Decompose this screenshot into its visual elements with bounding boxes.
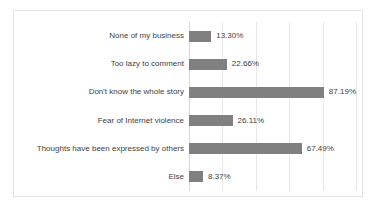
bar-value-label: 8.37% <box>208 173 231 181</box>
bar-row: Fear of Internet violence26.11% <box>189 107 356 135</box>
bar-value-label: 22.66% <box>232 60 259 68</box>
bar <box>189 143 302 154</box>
bar <box>189 171 203 182</box>
bar-value-label: 87.19% <box>329 88 356 96</box>
bar-row: None of my business13.30% <box>189 22 356 50</box>
plot-area: None of my business13.30%Too lazy to com… <box>189 22 356 191</box>
bar-value-label: 67.49% <box>307 145 334 153</box>
bar-row: Thoughts have been expressed by others67… <box>189 135 356 163</box>
category-label: Else <box>168 173 184 181</box>
chart-container: None of my business13.30%Too lazy to com… <box>13 10 363 197</box>
category-label: Don't know the whole story <box>89 88 184 96</box>
gridline <box>356 22 357 191</box>
bar-value-label: 13.30% <box>216 32 243 40</box>
bar-value-label: 26.11% <box>238 117 265 125</box>
bar-row: Else8.37% <box>189 163 356 191</box>
category-label: None of my business <box>109 32 184 40</box>
bar-row: Too lazy to comment22.66% <box>189 50 356 78</box>
category-label: Fear of Internet violence <box>98 117 184 125</box>
bar <box>189 115 233 126</box>
bar-rows: None of my business13.30%Too lazy to com… <box>189 22 356 191</box>
category-label: Thoughts have been expressed by others <box>37 145 184 153</box>
bar-row: Don't know the whole story87.19% <box>189 78 356 106</box>
bar <box>189 31 211 42</box>
bar <box>189 87 324 98</box>
bar <box>189 59 227 70</box>
category-label: Too lazy to comment <box>111 60 184 68</box>
